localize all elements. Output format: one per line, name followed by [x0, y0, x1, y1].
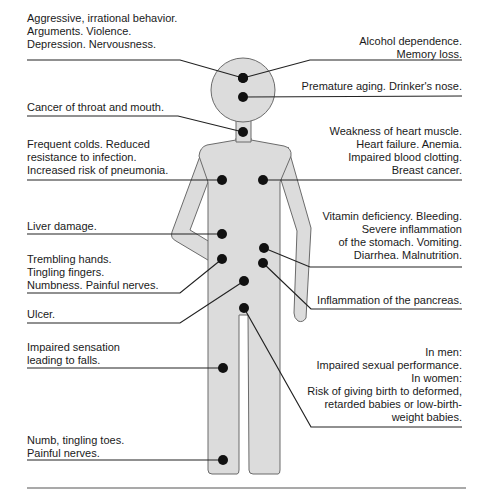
annotation-line: Impaired sexual performance. — [307, 359, 462, 372]
organ-dot-intestine — [239, 276, 249, 286]
leader-line-premature-aging — [243, 96, 462, 97]
annotation-heart: Weakness of heart muscle.Heart failure. … — [330, 125, 462, 177]
annotation-line: Frequent colds. Reduced — [27, 138, 168, 151]
annotation-line: Premature aging. Drinker's nose. — [302, 80, 462, 93]
annotation-line: Weakness of heart muscle. — [330, 125, 462, 138]
organ-dot-pancreas — [258, 258, 268, 268]
annotation-line: Memory loss. — [359, 48, 462, 61]
annotation-line: Liver damage. — [27, 220, 97, 233]
annotation-brain-behavior: Aggressive, irrational behavior.Argument… — [27, 12, 177, 51]
annotation-line: resistance to infection. — [27, 151, 168, 164]
annotation-premature-aging: Premature aging. Drinker's nose. — [302, 80, 462, 93]
annotation-line: Diarrhea. Malnutrition. — [322, 249, 462, 262]
annotation-line: Alcohol dependence. — [359, 35, 462, 48]
organ-dot-groin — [239, 303, 249, 313]
organ-dot-stomach — [259, 243, 269, 253]
organ-dot-thigh — [218, 363, 228, 373]
annotation-line: Severe inflammation — [322, 223, 462, 236]
annotation-liver: Liver damage. — [27, 220, 97, 233]
organ-dot-face — [238, 92, 248, 102]
annotation-hands: Trembling hands.Tingling fingers.Numbnes… — [27, 253, 158, 292]
annotation-line: Depression. Nervousness. — [27, 38, 177, 51]
annotation-line: Vitamin deficiency. Bleeding. — [322, 210, 462, 223]
annotation-line: Aggressive, irrational behavior. — [27, 12, 177, 25]
annotation-line: Risk of giving birth to deformed, — [307, 385, 462, 398]
annotation-feet: Numb, tingling toes.Painful nerves. — [27, 434, 124, 460]
annotation-line: leading to falls. — [27, 354, 120, 367]
organ-dot-lungs — [217, 175, 227, 185]
annotation-lungs: Frequent colds. Reducedresistance to inf… — [27, 138, 168, 177]
leader-line-alcohol-dependence — [243, 60, 462, 78]
annotation-line: Trembling hands. — [27, 253, 158, 266]
annotation-ulcer: Ulcer. — [27, 308, 55, 321]
annotation-line: weight babies. — [307, 411, 462, 424]
human-body-silhouette — [172, 58, 312, 474]
organ-dot-head-right — [238, 73, 248, 83]
annotation-line: Increased risk of pneumonia. — [27, 164, 168, 177]
organ-dot-hand — [217, 254, 227, 264]
head — [211, 58, 275, 122]
annotation-line: Breast cancer. — [330, 164, 462, 177]
annotation-line: In women: — [307, 372, 462, 385]
annotation-line: Inflammation of the pancreas. — [317, 294, 462, 307]
annotation-line: Arguments. Violence. — [27, 25, 177, 38]
organ-dot-foot — [218, 455, 228, 465]
annotation-line: Impaired sensation — [27, 341, 120, 354]
annotation-pancreas: Inflammation of the pancreas. — [317, 294, 462, 307]
annotation-line: Impaired blood clotting. — [330, 151, 462, 164]
annotation-line: Heart failure. Anemia. — [330, 138, 462, 151]
annotation-line: Numbness. Painful nerves. — [27, 279, 158, 292]
leader-line-throat-cancer — [27, 116, 243, 132]
annotation-legs: Impaired sensationleading to falls. — [27, 341, 120, 367]
annotation-reproductive: In men:Impaired sexual performance.In wo… — [307, 346, 462, 424]
annotation-line: Tingling fingers. — [27, 266, 158, 279]
leader-line-brain-behavior — [27, 60, 243, 78]
annotation-line: of the stomach. Vomiting. — [322, 236, 462, 249]
annotation-throat-cancer: Cancer of throat and mouth. — [27, 101, 164, 114]
annotation-alcohol-dependence: Alcohol dependence.Memory loss. — [359, 35, 462, 61]
organ-dot-throat — [238, 127, 248, 137]
organ-dot-heart — [258, 175, 268, 185]
annotation-line: Ulcer. — [27, 308, 55, 321]
annotation-stomach: Vitamin deficiency. Bleeding.Severe infl… — [322, 210, 462, 262]
annotation-line: In men: — [307, 346, 462, 359]
annotation-line: Painful nerves. — [27, 447, 124, 460]
annotation-line: Numb, tingling toes. — [27, 434, 124, 447]
organ-dot-liver — [217, 229, 227, 239]
annotation-line: Cancer of throat and mouth. — [27, 101, 164, 114]
annotation-line: retarded babies or low-birth- — [307, 398, 462, 411]
